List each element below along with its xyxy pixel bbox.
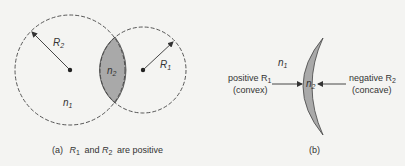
convex-label: (convex) <box>233 85 268 95</box>
panel-a: R2 R1 n2 n1 (a) R1 and R2 are positive <box>15 15 186 157</box>
panel-b-caption: (b) <box>309 145 320 155</box>
lens-radius-diagram: R2 R1 n2 n1 (a) R1 and R2 are positive n… <box>0 0 405 166</box>
n1-label-b: n1 <box>278 57 288 69</box>
panel-b: n1 n2 positive R1 (convex) negative R2 (… <box>228 38 396 155</box>
r1-label: R1 <box>160 59 171 71</box>
panel-a-caption: (a) R1 and R2 are positive <box>52 145 163 157</box>
r2-label: R2 <box>53 37 64 49</box>
n1-label: n1 <box>63 97 73 109</box>
r2-radius-arrow <box>32 32 70 70</box>
negative-r2-label: negative R2 <box>349 73 396 84</box>
positive-r1-label: positive R1 <box>228 73 272 84</box>
n2-label-b: n2 <box>306 78 316 90</box>
concave-label: (concave) <box>352 85 392 95</box>
